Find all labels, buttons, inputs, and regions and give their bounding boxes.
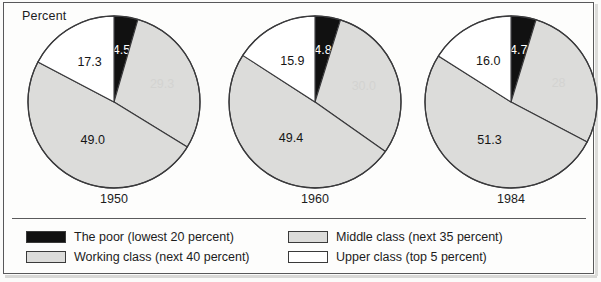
pie-year-label-1960: 1960: [227, 192, 403, 206]
pie-year-label-1984: 1984: [423, 192, 599, 206]
frame-shadow-bottom: [5, 275, 597, 278]
slice-value-label: 51.3: [477, 133, 501, 147]
legend-item-label: Upper class (top 5 percent): [336, 250, 487, 264]
slice-value-label: 28: [552, 76, 566, 90]
slice-value-label: 29.3: [150, 77, 174, 91]
white-swatch-icon: [288, 251, 328, 263]
legend-item: Working class (next 40 percent): [26, 248, 250, 266]
legend-item: Middle class (next 35 percent): [288, 228, 503, 246]
legend-column-left: The poor (lowest 20 percent) Working cla…: [26, 228, 250, 268]
slice-value-label: 49.4: [279, 131, 303, 145]
legend-column-right: Middle class (next 35 percent) Upper cla…: [288, 228, 503, 268]
slice-value-label: 4.8: [314, 43, 331, 57]
black-swatch-icon: [26, 231, 66, 243]
slice-value-label: 16.0: [476, 54, 500, 68]
legend-item-label: Working class (next 40 percent): [74, 250, 250, 264]
slice-value-label: 49.0: [81, 133, 105, 147]
pie-svg: 4.72851.316.0: [423, 14, 599, 190]
legend-item: Upper class (top 5 percent): [288, 248, 503, 266]
slice-value-label: 17.3: [77, 55, 101, 69]
pie-1960: 4.830.049.415.9: [227, 14, 403, 190]
slice-value-label: 15.9: [280, 54, 304, 68]
legend-item-label: Middle class (next 35 percent): [336, 230, 503, 244]
pie-svg: 4.830.049.415.9: [227, 14, 403, 190]
pie-year-label-1950: 1950: [26, 192, 202, 206]
gray-swatch-icon: [288, 231, 328, 243]
legend-item: The poor (lowest 20 percent): [26, 228, 250, 246]
gray-swatch-icon: [26, 251, 66, 263]
legend-divider: [12, 218, 586, 219]
pie-1984: 4.72851.316.0: [423, 14, 599, 190]
legend-item-label: The poor (lowest 20 percent): [74, 230, 234, 244]
slice-value-label: 30.0: [352, 79, 376, 93]
pie-1950: 4.529.349.017.3: [26, 14, 202, 190]
pie-chart-figure: Percent 4.529.349.017.319504.830.049.415…: [0, 0, 601, 282]
pie-svg: 4.529.349.017.3: [26, 14, 202, 190]
